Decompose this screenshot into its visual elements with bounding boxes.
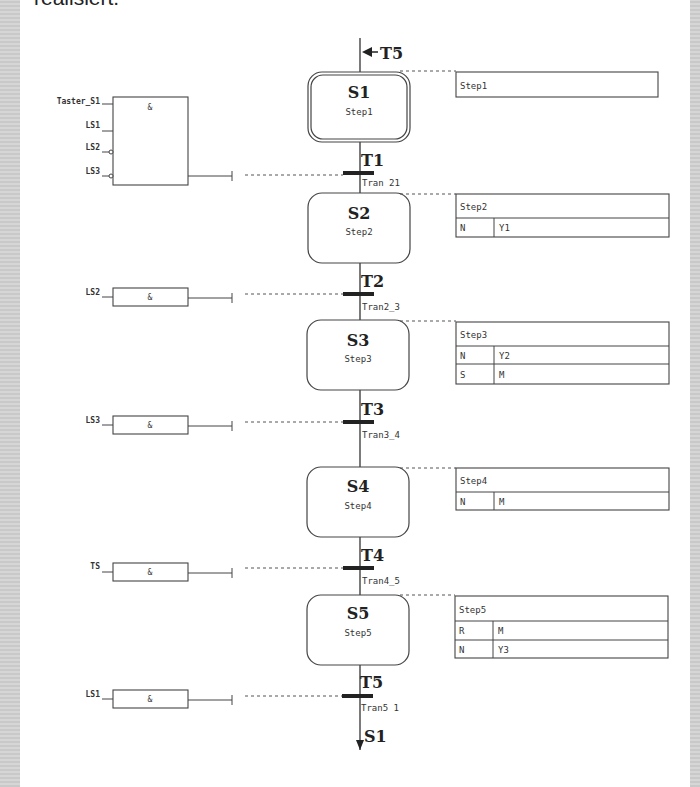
input-label: LS1 bbox=[86, 690, 101, 699]
entry-arrow: T5 bbox=[362, 44, 403, 63]
action-block-title: Step2 bbox=[460, 202, 487, 212]
step-name: Step4 bbox=[344, 501, 371, 511]
transition-name: Tran 21 bbox=[362, 178, 400, 188]
condition-block-t3[interactable]: & LS3 bbox=[86, 416, 232, 434]
step-id: S5 bbox=[347, 604, 370, 623]
action-block-s5[interactable]: Step5 R M N Y3 bbox=[455, 596, 668, 658]
input-label: TS bbox=[90, 562, 100, 571]
sfc-diagram: T5 S1 Step1 Step1 T1 Tran 21 & Taster_S1… bbox=[0, 0, 700, 787]
step-name: Step1 bbox=[345, 107, 372, 117]
step-s3[interactable]: S3 Step3 bbox=[307, 320, 409, 390]
step-s1[interactable]: S1 Step1 bbox=[308, 72, 410, 142]
action-block-title: Step1 bbox=[460, 81, 487, 91]
input-label: Taster_S1 bbox=[57, 97, 101, 106]
arrow-down-icon bbox=[356, 740, 364, 750]
and-operator: & bbox=[148, 103, 153, 112]
step-s2[interactable]: S2 Step2 bbox=[308, 193, 410, 263]
transition-name: Tran4_5 bbox=[362, 576, 400, 586]
action-variable: M bbox=[498, 626, 504, 636]
action-variable: Y1 bbox=[499, 223, 510, 233]
negation-icon bbox=[109, 174, 113, 178]
action-qualifier: S bbox=[460, 370, 465, 380]
action-qualifier: N bbox=[460, 351, 465, 361]
transition-name: Tran3_4 bbox=[362, 430, 400, 440]
transition-id: T1 bbox=[361, 151, 384, 170]
input-label: LS2 bbox=[86, 143, 101, 152]
arrow-left-icon bbox=[362, 47, 372, 57]
step-name: Step3 bbox=[344, 354, 371, 364]
action-variable: Y2 bbox=[499, 351, 510, 361]
action-variable: Y3 bbox=[498, 645, 509, 655]
and-operator: & bbox=[148, 695, 153, 704]
step-id: S4 bbox=[347, 477, 370, 496]
entry-label: T5 bbox=[380, 44, 403, 63]
action-block-title: Step4 bbox=[460, 476, 487, 486]
negation-icon bbox=[109, 150, 113, 154]
input-label: LS1 bbox=[86, 121, 101, 130]
condition-block-t4[interactable]: & TS bbox=[90, 562, 232, 581]
step-name: Step2 bbox=[345, 227, 372, 237]
action-variable: M bbox=[499, 497, 505, 507]
and-operator: & bbox=[148, 421, 153, 430]
action-block-s2[interactable]: Step2 N Y1 bbox=[456, 194, 669, 237]
transition-name: Tran5 1 bbox=[361, 703, 399, 713]
condition-block-t5[interactable]: & LS1 bbox=[86, 690, 232, 708]
transition-t1[interactable]: T1 Tran 21 bbox=[343, 151, 400, 188]
action-qualifier: N bbox=[459, 645, 464, 655]
condition-block-t1[interactable]: & Taster_S1 LS1 LS2 LS3 bbox=[57, 97, 232, 185]
step-id: S2 bbox=[348, 204, 371, 223]
action-block-title: Step5 bbox=[459, 605, 486, 615]
action-qualifier: N bbox=[460, 497, 465, 507]
action-qualifier: N bbox=[460, 223, 465, 233]
step-id: S3 bbox=[347, 331, 370, 350]
input-label: LS3 bbox=[86, 416, 101, 425]
transition-name: Tran2_3 bbox=[362, 302, 400, 312]
input-label: LS2 bbox=[86, 288, 101, 297]
transition-t2[interactable]: T2 Tran2_3 bbox=[343, 272, 400, 312]
action-qualifier: R bbox=[459, 626, 465, 636]
transition-t3[interactable]: T3 Tran3_4 bbox=[343, 400, 400, 440]
action-block-s4[interactable]: Step4 N M bbox=[456, 468, 669, 510]
exit-label: S1 bbox=[364, 727, 387, 746]
step-s5[interactable]: S5 Step5 bbox=[307, 595, 409, 665]
and-operator: & bbox=[148, 568, 153, 577]
action-block-title: Step3 bbox=[460, 330, 487, 340]
condition-block-t2[interactable]: & LS2 bbox=[86, 288, 232, 306]
action-block-s1[interactable]: Step1 bbox=[456, 72, 658, 97]
step-s4[interactable]: S4 Step4 bbox=[307, 467, 409, 537]
transition-t5[interactable]: T5 Tran5 1 bbox=[342, 673, 399, 713]
transition-t4[interactable]: T4 Tran4_5 bbox=[343, 546, 400, 586]
action-block-s3[interactable]: Step3 N Y2 S M bbox=[456, 322, 669, 384]
and-operator: & bbox=[148, 293, 153, 302]
step-id: S1 bbox=[348, 83, 371, 102]
transition-id: T5 bbox=[360, 673, 383, 692]
input-label: LS3 bbox=[86, 167, 101, 176]
transition-id: T2 bbox=[361, 272, 384, 291]
action-variable: M bbox=[499, 370, 505, 380]
step-name: Step5 bbox=[344, 628, 371, 638]
transition-id: T3 bbox=[361, 400, 384, 419]
transition-id: T4 bbox=[361, 546, 384, 565]
